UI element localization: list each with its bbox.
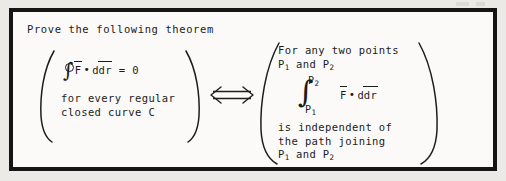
conclusion-line: is independent of: [278, 121, 428, 135]
dot-product-operator: •: [82, 63, 93, 75]
point-label: P: [278, 148, 285, 160]
integral-value: 0: [132, 64, 139, 76]
conclusion-line: the path joining: [278, 135, 428, 149]
left-open-paren-icon: [35, 48, 57, 144]
right-close-paren-icon: [416, 40, 442, 166]
scan-artifact: [476, 2, 485, 6]
point-label: P: [278, 58, 285, 70]
theorem-box: Prove the following theorem ∫: [9, 8, 497, 171]
dot-product-operator: •: [347, 88, 358, 102]
definite-integral: ∫ P2 P1 F•ddr: [278, 75, 428, 119]
equivalence-statement: ∫ F•ddr = 0 for every regular closed cur…: [13, 40, 493, 168]
integral-upper-limit: P2: [308, 74, 319, 91]
contour-integral-equation: ∫ F•ddr = 0: [63, 64, 139, 76]
conjunction: and P: [289, 148, 329, 160]
lower-limit-subscript: 1: [311, 108, 316, 117]
right-hand-side-body: For any two points P1 and P2 ∫ P2 P1 F•d…: [278, 44, 428, 165]
left-close-paren-icon: [183, 48, 205, 144]
conclusion-points-line: P1 and P2: [278, 148, 428, 165]
theorem-box-content: Prove the following theorem ∫: [13, 12, 493, 167]
upper-limit-subscript: 2: [314, 79, 319, 88]
page-title: Prove the following theorem: [27, 23, 214, 35]
integral-integrand: F•ddr: [340, 89, 377, 103]
condition-line: for every regular: [61, 92, 175, 106]
rhs-points-line: P1 and P2: [278, 58, 428, 75]
conjunction: and P: [289, 58, 329, 70]
left-hand-side: ∫ F•ddr = 0 for every regular closed cur…: [35, 48, 205, 144]
contour-loop-icon: [65, 63, 74, 72]
if-and-only-if-icon: [209, 84, 255, 106]
scan-artifact: [456, 2, 469, 6]
rhs-conclusion-text: is independent of the path joining P1 an…: [278, 121, 428, 165]
vector-differential-r: dr: [99, 64, 112, 76]
point-subscript: 2: [330, 63, 335, 72]
vector-field-F: F: [340, 89, 347, 103]
vector-differential-r: dr: [364, 89, 377, 103]
rhs-intro-line: For any two points: [278, 44, 428, 58]
condition-line: closed curve C: [61, 106, 175, 120]
point-subscript: 2: [330, 153, 335, 162]
left-condition-text: for every regular closed curve C: [61, 92, 175, 119]
right-hand-side: For any two points P1 and P2 ∫ P2 P1 F•d…: [256, 40, 446, 168]
scanned-page: Prove the following theorem ∫: [0, 0, 506, 181]
integral-lower-limit: P1: [305, 103, 316, 120]
equals-sign: =: [119, 64, 126, 76]
vector-field-F: F: [75, 64, 82, 76]
